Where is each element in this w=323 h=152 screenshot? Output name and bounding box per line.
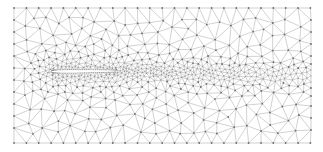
mesh-figure: Unstructured triangular mesh around an a… bbox=[0, 0, 323, 152]
airfoil-mesh-diagram bbox=[0, 0, 323, 152]
mesh-edge-path bbox=[14, 8, 311, 143]
mesh-edges bbox=[14, 8, 311, 143]
